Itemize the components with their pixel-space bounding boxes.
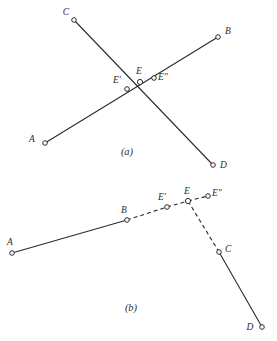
figure-a-caption: (a) [121,146,134,158]
figure-b-label-C: C [225,244,232,254]
figure-b-point-C [217,250,222,255]
figure-b-line-A-B [12,220,127,253]
figure-a-point-E-prime [125,87,130,92]
figure-a-label-A: A [28,134,35,144]
figure-a-point-D [211,163,216,168]
figure-b-line-E-C [188,201,219,252]
figure-a-point-A [43,141,48,146]
figure-a-label-C: C [63,7,70,17]
figure-b-line-E-prime-E [167,201,188,207]
figure-a-label-B: B [225,26,231,36]
figure-b-label-E-double-prime: E″ [211,188,223,198]
figure-b-point-D [260,325,265,330]
figure-b-label-A: A [6,237,13,247]
figure-b-line-C-D [219,252,262,327]
figure-b-point-E [185,198,190,203]
figure-b-caption: (b) [125,302,138,314]
figure-b-label-E-prime: E′ [157,192,167,202]
figure-b-point-E-prime [165,205,170,210]
figure-a-label-E-double-prime: E″ [157,72,169,82]
figure-a-point-E-double-prime [152,76,157,81]
figure-a-point-C [72,18,77,23]
figure-b-point-A [10,251,15,256]
figure-a: C B A D E′ E E″ (a) [28,7,231,170]
figure-a-point-E [137,79,142,84]
figure-b-label-D: D [246,322,254,332]
figure-b-line-B-E-prime [127,207,167,220]
figure-b-label-B: B [121,205,127,215]
figure-a-line-A-B [45,37,218,143]
figure-b: A B E′ E E″ C D (b) [6,186,264,332]
figure-a-label-E: E [135,66,142,76]
figure-b-label-E: E [183,186,190,196]
figure-a-label-E-prime: E′ [112,75,122,85]
figure-a-line-C-D [74,20,213,165]
figure-a-label-D: D [219,160,227,170]
figure-a-point-B [216,35,221,40]
geometry-diagram-canvas: C B A D E′ E E″ (a) [0,0,277,341]
figure-b-point-E-double-prime [206,194,211,199]
figure-b-point-B [125,218,130,223]
